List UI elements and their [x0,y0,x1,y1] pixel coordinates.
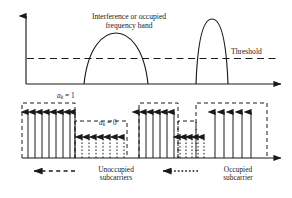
spectrum-lobe-2 [196,19,228,84]
figure-root: Interference or occupied frequency band … [0,0,292,198]
box-group-occupied-middle [139,103,178,158]
unoccupied-label-line2: subcarriers [83,174,149,182]
group-occupied-middle [139,112,174,158]
occupied-subcarrier-label: Occupied subcarrier [207,166,269,183]
ak-zero-eq: = 0 [105,118,117,127]
ak-equals-zero-label: ak = 0 [99,119,117,127]
bottom-panel-group [22,103,281,171]
group-unoccupied-right [180,137,204,158]
group-occupied-left [28,112,75,158]
group-unoccupied-middle [82,137,124,158]
interference-caption-line2: frequency band [73,22,185,31]
unoccupied-subcarriers-label: Unoccupied subcarriers [83,166,149,183]
box-group-occupied-right [196,103,267,158]
ak-equals-one-label: ak = 1 [57,92,75,100]
box-group-unoccupied-right [178,121,196,158]
threshold-label: Threshold [231,48,262,57]
interference-caption: Interference or occupied frequency band [73,13,185,30]
occupied-label-line2: subcarrier [207,174,269,182]
ak-one-eq: = 1 [63,91,75,100]
spectrum-lobe-1 [84,33,148,84]
group-occupied-right [215,112,251,158]
